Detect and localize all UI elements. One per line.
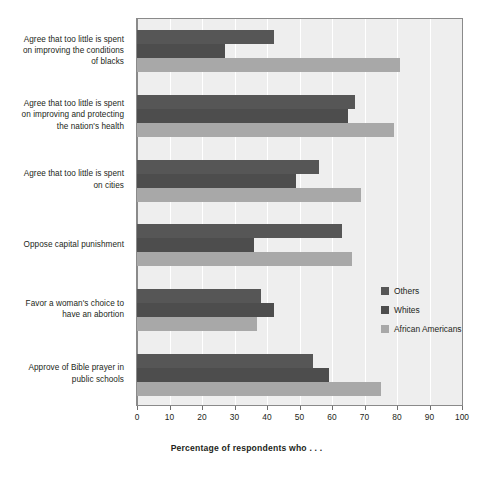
category-label: Favor a woman's choice tohave an abortio… [0,298,124,320]
x-tick-label-10: 10 [165,412,174,422]
category-label-line: of blacks [0,56,124,67]
category-label-line: on cities [0,180,124,191]
category-label-line: Agree that too little is spent [0,168,124,179]
bar [137,382,381,396]
category-label-line: Agree that too little is spent [0,98,124,109]
x-axis: 0102030405060708090100 [136,406,463,426]
bar-group [137,30,462,72]
x-tick-label-60: 60 [327,412,336,422]
category-label: Oppose capital punishment [0,239,124,250]
bar [137,238,254,252]
chart-legend: OthersWhitesAfrican Americans [381,281,489,338]
x-tick-60 [332,406,333,410]
legend-label: African Americans [394,324,462,334]
gridline-100 [462,19,463,405]
x-tick-label-20: 20 [197,412,206,422]
x-tick-label-50: 50 [295,412,304,422]
x-tick-label-90: 90 [425,412,434,422]
bar [137,303,274,317]
bar-group [137,160,462,202]
bar [137,368,329,382]
bar [137,58,400,72]
category-label-line: on improving and protecting [0,109,124,120]
category-label-line: public schools [0,374,124,385]
x-axis-title: Percentage of respondents who . . . [0,443,493,453]
bar-group [137,95,462,137]
bar [137,30,274,44]
legend-label: Others [394,286,419,296]
bar-group [137,224,462,266]
x-tick-40 [267,406,268,410]
legend-label: Whites [394,305,420,315]
x-tick-100 [462,406,463,410]
category-label: Agree that too little is spenton cities [0,168,124,190]
bar [137,174,296,188]
bar [137,109,348,123]
category-label-line: Favor a woman's choice to [0,298,124,309]
bar [137,95,355,109]
bar [137,188,361,202]
category-label-line: Approve of Bible prayer in [0,362,124,373]
legend-item-whites[interactable]: Whites [381,300,489,319]
x-tick-20 [202,406,203,410]
category-label-column: Agree that too little is spenton improvi… [0,18,130,406]
x-tick-10 [170,406,171,410]
category-label-line: have an abortion [0,309,124,320]
bar [137,317,257,331]
bar [137,224,342,238]
x-tick-70 [365,406,366,410]
x-tick-label-30: 30 [230,412,239,422]
x-tick-label-0: 0 [135,412,140,422]
bar [137,160,319,174]
legend-item-african-americans[interactable]: African Americans [381,319,489,338]
x-tick-90 [430,406,431,410]
x-tick-label-40: 40 [262,412,271,422]
legend-swatch [381,287,389,295]
bar-groups [137,19,462,405]
category-label: Agree that too little is spenton improvi… [0,98,124,132]
x-tick-50 [300,406,301,410]
category-label: Approve of Bible prayer inpublic schools [0,362,124,384]
bar [137,44,225,58]
category-label-line: on improving the conditions [0,45,124,56]
bar [137,252,352,266]
category-label-line: Agree that too little is spent [0,34,124,45]
plot-area [136,18,463,406]
x-tick-30 [235,406,236,410]
bar-group [137,354,462,396]
legend-swatch [381,325,389,333]
bar [137,354,313,368]
legend-item-others[interactable]: Others [381,281,489,300]
bar-chart-figure: Agree that too little is spenton improvi… [0,0,493,479]
x-tick-label-100: 100 [455,412,469,422]
bar [137,123,394,137]
x-tick-80 [397,406,398,410]
category-label-line: Oppose capital punishment [0,239,124,250]
category-label-line: the nation's health [0,121,124,132]
x-tick-0 [137,406,138,410]
category-label: Agree that too little is spenton improvi… [0,34,124,68]
bar [137,289,261,303]
x-tick-label-70: 70 [360,412,369,422]
x-tick-label-80: 80 [392,412,401,422]
legend-swatch [381,306,389,314]
